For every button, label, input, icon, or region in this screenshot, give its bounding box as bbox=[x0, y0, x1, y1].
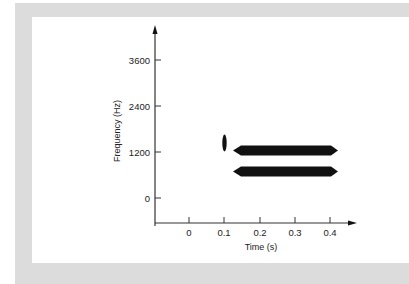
burst-shape bbox=[222, 135, 226, 152]
formant-2-bar bbox=[233, 146, 338, 156]
x-tick-0.1: 0.1 bbox=[217, 227, 230, 238]
y-tick-2400: 2400 bbox=[129, 101, 150, 112]
y-axis: 3600 2400 1200 0 Frequency (Hz) bbox=[112, 25, 161, 226]
x-axis: 0 0.1 0.2 0.3 0.4 Time (s) bbox=[155, 217, 357, 252]
x-tick-0.3: 0.3 bbox=[288, 227, 301, 238]
formant-1-bar bbox=[233, 167, 338, 177]
y-axis-arrow-icon bbox=[153, 25, 158, 34]
y-tick-3600: 3600 bbox=[129, 55, 150, 66]
spectrogram-chart: 3600 2400 1200 0 Frequency (Hz) 0 0.1 0.… bbox=[0, 0, 409, 284]
x-tick-0.2: 0.2 bbox=[253, 227, 266, 238]
y-tick-1200: 1200 bbox=[129, 147, 150, 158]
x-tick-0.4: 0.4 bbox=[323, 227, 336, 238]
x-axis-label: Time (s) bbox=[245, 242, 278, 252]
x-axis-arrow-icon bbox=[348, 221, 357, 226]
y-axis-label: Frequency (Hz) bbox=[112, 100, 122, 162]
x-tick-0: 0 bbox=[186, 227, 191, 238]
y-tick-0: 0 bbox=[145, 193, 150, 204]
